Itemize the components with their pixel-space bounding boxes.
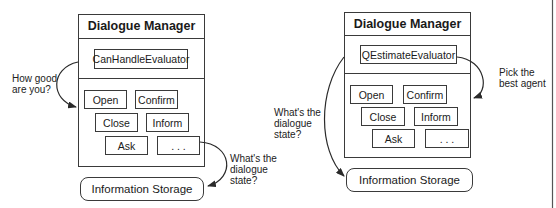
arrow-dialogue-state-icon [200, 142, 227, 186]
arrows-layer [0, 0, 556, 208]
arrow-how-good-icon [57, 62, 78, 107]
arrow-pick-agent-icon [457, 57, 483, 98]
arrow-dialogue-state-icon [325, 57, 345, 176]
